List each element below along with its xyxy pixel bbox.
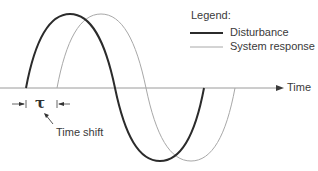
legend-label-response: System response (230, 41, 315, 52)
time-shift-label: Time shift (56, 127, 103, 138)
axis-label-time: Time (287, 82, 311, 93)
pointer-arrowhead-icon (44, 113, 49, 118)
tau-arrowhead-right-icon (58, 102, 64, 106)
legend-label-disturbance: Disturbance (230, 27, 289, 38)
legend-title: Legend: (191, 10, 231, 21)
tau-arrowhead-left-icon (19, 102, 25, 106)
tau-symbol: τ (35, 96, 45, 111)
axis-arrow-icon (276, 85, 284, 91)
